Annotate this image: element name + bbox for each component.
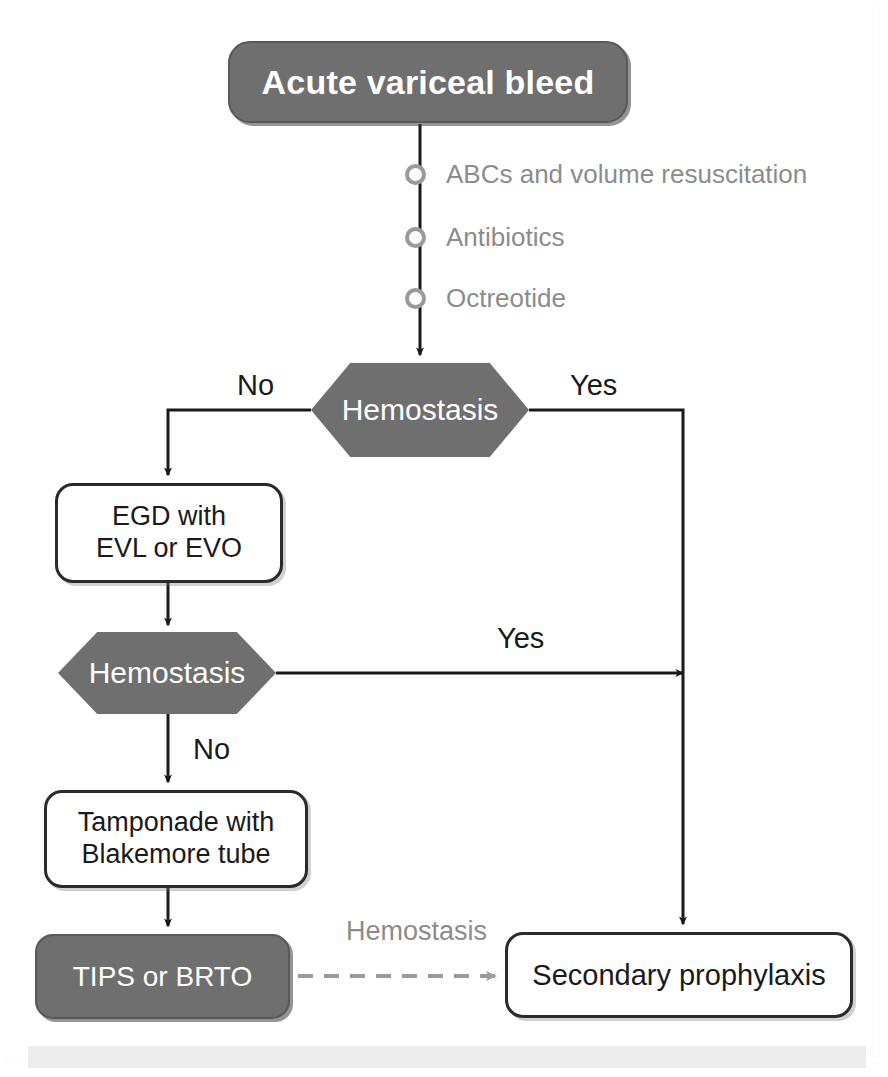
node-hemostasis-1-label: Hemostasis [342,393,499,427]
edge-label-yes-2: Yes [497,622,544,655]
bullet-circle-icon [405,288,426,309]
edge-label-no-2: No [193,733,230,766]
bullet-item-octreotide: Octreotide [405,283,566,314]
bullet-label: ABCs and volume resuscitation [446,159,807,190]
edge-hemostasis1-no-to-egd [168,410,311,475]
node-hemostasis-decision-2[interactable]: Hemostasis [58,632,276,714]
node-hemostasis-2-label: Hemostasis [89,656,246,690]
node-egd-line2: EVL or EVO [96,533,242,563]
node-tamponade-label: Tamponade with Blakemore tube [78,807,275,871]
bullet-circle-icon [405,227,426,248]
node-egd-line1: EGD with [112,501,226,531]
node-tips-or-brto[interactable]: TIPS or BRTO [35,934,290,1019]
bullet-label: Antibiotics [446,222,565,253]
edge-label-yes-1: Yes [570,369,617,402]
bullet-item-antibiotics: Antibiotics [405,222,565,253]
diagram-canvas: Acute variceal bleed ABCs and volume res… [0,0,888,1077]
node-tamponade-line1: Tamponade with [78,807,275,837]
edge-label-hemostasis-dashed: Hemostasis [346,916,487,947]
node-egd-with-evl-or-evo[interactable]: EGD with EVL or EVO [55,483,283,583]
bullet-item-abcs: ABCs and volume resuscitation [405,159,807,190]
node-secondary-prophylaxis[interactable]: Secondary prophylaxis [505,932,853,1018]
bottom-band [28,1046,866,1068]
node-egd-label: EGD with EVL or EVO [96,501,242,565]
node-hemostasis-decision-1[interactable]: Hemostasis [311,363,529,457]
bullet-circle-icon [405,164,426,185]
bullet-label: Octreotide [446,283,566,314]
node-secondary-label: Secondary prophylaxis [532,959,825,992]
edge-label-no-1: No [237,369,274,402]
edge-hemostasis1-yes-to-secondary [529,410,683,924]
node-tips-label: TIPS or BRTO [73,961,252,993]
node-acute-label: Acute variceal bleed [262,63,595,102]
node-tamponade-with-blakemore-tube[interactable]: Tamponade with Blakemore tube [44,790,308,888]
node-tamponade-line2: Blakemore tube [81,839,270,869]
node-acute-variceal-bleed[interactable]: Acute variceal bleed [228,41,628,123]
